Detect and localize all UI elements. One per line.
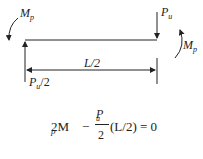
reaction-label: Pu/2 [29, 76, 50, 88]
right-moment-label: Mp [183, 39, 197, 51]
equation-lead: 2Mp [51, 120, 56, 133]
fraction-denominator: 2 [98, 129, 104, 141]
fraction-bar [95, 124, 109, 125]
span-label: L/2 [84, 57, 100, 69]
left-moment-arc [9, 18, 18, 40]
equation-tail: (L/2) = 0 [110, 120, 157, 133]
equilibrium-equation: 2Mp − Pu 2 (L/2) = 0 [0, 105, 203, 145]
load-label: Pu [161, 6, 172, 18]
equation-minus: − [82, 120, 89, 133]
left-moment-label: Mp [20, 7, 34, 19]
fraction-numerator: Pu [96, 108, 100, 120]
right-moment-arc [175, 30, 182, 58]
